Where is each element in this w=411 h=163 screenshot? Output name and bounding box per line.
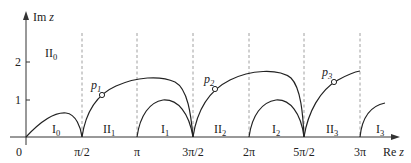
x-tick-pi-half: π/2 — [74, 145, 89, 159]
complex-plane-diagram: Im z Re z 0 1 2 π/2 π 3π/2 2π 5π/2 3π I0… — [0, 0, 411, 163]
label-p2: p2 — [203, 72, 215, 88]
x-tick-2pi: 2π — [243, 145, 255, 159]
region-II1: II1 — [103, 122, 115, 138]
points — [99, 79, 336, 97]
x-tick-pi: π — [134, 145, 140, 159]
region-II0: II0 — [45, 46, 57, 62]
region-II2: II2 — [214, 122, 226, 138]
y-tick-2: 2 — [15, 55, 21, 69]
region-I2: I2 — [272, 122, 280, 138]
x-tick-3pi-half: 3π/2 — [182, 145, 203, 159]
region-I3: I3 — [376, 122, 384, 138]
region-I0: I0 — [52, 122, 60, 138]
y-tick-1: 1 — [15, 93, 21, 107]
y-axis-arrow-icon — [23, 11, 29, 20]
region-II3: II3 — [326, 122, 338, 138]
region-I1: I1 — [161, 122, 169, 138]
label-p3: p3 — [321, 65, 332, 81]
origin-label: 0 — [16, 145, 22, 159]
x-axis-label: Re z — [383, 145, 404, 159]
y-axis-label: Im z — [33, 10, 54, 24]
x-axis-arrow-icon — [391, 134, 400, 140]
x-tick-3pi: 3π — [354, 145, 366, 159]
label-p1: p1 — [90, 78, 101, 94]
x-tick-5pi-half: 5π/2 — [293, 145, 314, 159]
